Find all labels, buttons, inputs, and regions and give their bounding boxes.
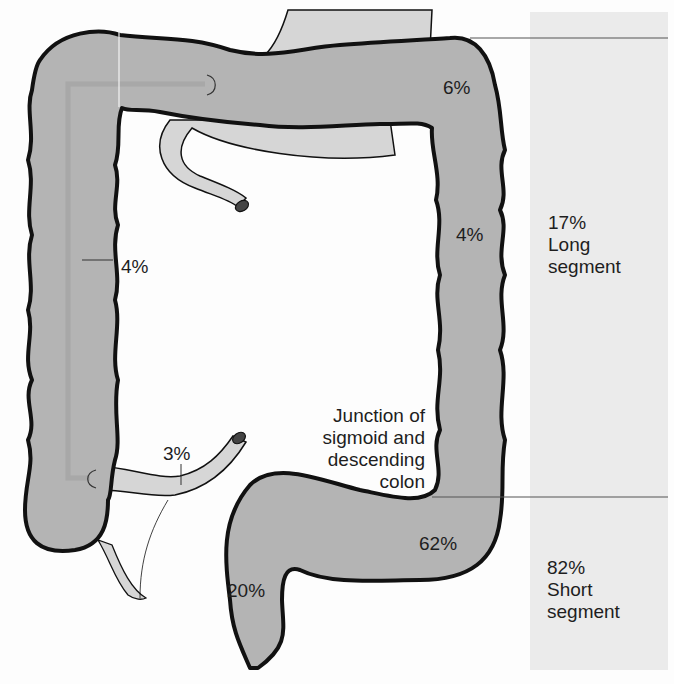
mesentery-line bbox=[140, 500, 168, 598]
long-segment-percent: 17% bbox=[548, 212, 621, 234]
label-sigmoid: 62% bbox=[419, 533, 457, 555]
label-transverse-right: 6% bbox=[443, 77, 470, 99]
short-segment-label: 82% Short segment bbox=[547, 557, 620, 623]
label-descending: 4% bbox=[456, 224, 483, 246]
label-ascending: 4% bbox=[121, 256, 148, 278]
junction-label: Junction of sigmoid and descending colon bbox=[323, 405, 425, 493]
short-segment-line: segment bbox=[547, 601, 620, 623]
long-segment-label: 17% Long segment bbox=[548, 212, 621, 278]
colon-body bbox=[25, 32, 505, 668]
short-segment-line: Short bbox=[547, 579, 620, 601]
appendix bbox=[98, 540, 146, 599]
junction-line: descending bbox=[323, 449, 425, 471]
junction-line: sigmoid and bbox=[323, 427, 425, 449]
short-segment-percent: 82% bbox=[547, 557, 620, 579]
label-rectum: 20% bbox=[227, 580, 265, 602]
label-cecum-ileum: 3% bbox=[163, 443, 190, 465]
colon-diagram: 6% 4% 4% 3% 62% 20% Junction of sigmoid … bbox=[0, 0, 674, 684]
junction-line: Junction of bbox=[323, 405, 425, 427]
long-segment-line: Long bbox=[548, 234, 621, 256]
long-segment-line: segment bbox=[548, 256, 621, 278]
junction-line: colon bbox=[323, 471, 425, 493]
small-intestine-upper bbox=[160, 120, 395, 207]
